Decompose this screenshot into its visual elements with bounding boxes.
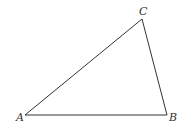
- triangle-diagram: A B C: [0, 0, 183, 133]
- vertex-label-a: A: [15, 111, 24, 124]
- vertex-label-c: C: [139, 5, 148, 18]
- vertex-label-b: B: [168, 111, 177, 124]
- triangle-abc: [25, 19, 167, 115]
